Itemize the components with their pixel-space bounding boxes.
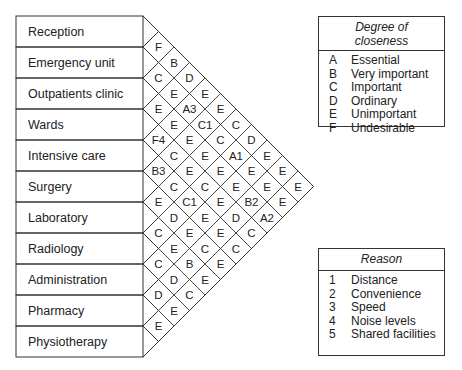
relationship-cell: E (263, 181, 271, 193)
reason-legend-item: 3Speed (319, 301, 444, 315)
relationship-cell: A3 (182, 103, 196, 115)
relationship-cell: D (170, 212, 178, 224)
closeness-legend-key: E (319, 108, 351, 122)
relationship-cell: F4 (152, 134, 166, 146)
relationship-cell: E (294, 181, 302, 193)
relationship-cell: E (217, 165, 225, 177)
relationship-cell: B3 (151, 165, 165, 177)
department-row: Outpatients clinic (16, 78, 159, 109)
closeness-legend-label: Important (351, 81, 402, 95)
reason-legend-label: Convenience (351, 288, 421, 302)
relationship-cell: E (201, 212, 209, 224)
relationship-cell: C (170, 150, 178, 162)
relationship-cell: E (248, 165, 256, 177)
relationship-cell: E (201, 274, 209, 286)
department-label: Emergency unit (28, 56, 115, 70)
closeness-legend-label: Unimportant (351, 108, 416, 122)
relationship-cell: E (232, 181, 240, 193)
relationship-cell: E (201, 150, 209, 162)
reason-legend-item: 2Convenience (319, 288, 444, 302)
relationship-cell: B (170, 57, 178, 69)
reason-legend-key: 1 (319, 274, 351, 288)
reason-legend: Reason 1Distance2Convenience3Speed4Noise… (318, 248, 445, 356)
closeness-legend-item: AEssential (319, 54, 444, 68)
relationship-cell: E (155, 196, 163, 208)
relationship-cell: E (217, 227, 225, 239)
relationship-cell: E (279, 165, 287, 177)
closeness-legend-key: D (319, 95, 351, 109)
department-row: Intensive care (16, 140, 159, 171)
relationship-cell: D (154, 289, 162, 301)
department-label: Radiology (28, 242, 84, 256)
reason-legend-key: 2 (319, 288, 351, 302)
closeness-legend-title: Degree of closeness (319, 17, 444, 51)
department-label: Pharmacy (28, 304, 85, 318)
department-label: Reception (28, 25, 84, 39)
department-label: Physiotherapy (28, 335, 108, 349)
relationship-cell: D (185, 72, 193, 84)
relationship-cell: E (186, 227, 194, 239)
department-label: Intensive care (28, 149, 106, 163)
relationship-cell: E (170, 305, 178, 317)
relationship-cell: E (217, 103, 225, 115)
closeness-legend-label: Essential (351, 54, 400, 68)
reason-legend-item: 4Noise levels (319, 315, 444, 329)
closeness-legend-item: EUnimportant (319, 108, 444, 122)
relationship-cell: F (155, 41, 162, 53)
department-row: Surgery (16, 171, 159, 202)
relationship-cell: C (247, 227, 255, 239)
relationship-cell: E (170, 119, 178, 131)
closeness-legend-item: BVery important (319, 68, 444, 82)
reason-legend-item: 1Distance (319, 274, 444, 288)
relationship-cell: E (217, 196, 225, 208)
reason-legend-key: 5 (319, 328, 351, 342)
department-row: Reception (16, 16, 159, 47)
closeness-legend-label: Undesirable (351, 122, 415, 136)
department-row: Physiotherapy (16, 326, 159, 357)
relationship-cell: E (186, 134, 194, 146)
relationship-cell: B (186, 258, 194, 270)
department-row: Laboratory (16, 202, 159, 233)
department-label: Laboratory (28, 211, 89, 225)
reason-legend-key: 4 (319, 315, 351, 329)
relationship-cell: D (170, 274, 178, 286)
closeness-legend-item: FUndesirable (319, 122, 444, 136)
closeness-legend: Degree of closeness AEssentialBVery impo… (318, 16, 445, 127)
relationship-cell: A2 (260, 212, 274, 224)
relationship-cell: B2 (244, 196, 258, 208)
closeness-legend-key: C (319, 81, 351, 95)
closeness-legend-label: Ordinary (351, 95, 397, 109)
relationship-cell: C1 (198, 119, 213, 131)
relationship-cell: E (170, 88, 178, 100)
reason-legend-label: Speed (351, 301, 386, 315)
relationship-cell: E (155, 320, 163, 332)
department-label: Outpatients clinic (28, 87, 123, 101)
department-row: Wards (16, 109, 159, 140)
relationship-cell: C1 (182, 196, 197, 208)
relationship-cell: C (201, 243, 209, 255)
reason-legend-key: 3 (319, 301, 351, 315)
relationship-cell: E (201, 88, 209, 100)
relationship-cell: C (201, 181, 209, 193)
relationship-cell: C (185, 289, 193, 301)
department-row: Pharmacy (16, 295, 159, 326)
relationship-cell: E (170, 243, 178, 255)
department-label: Surgery (28, 180, 73, 194)
relationship-cell: E (217, 258, 225, 270)
relationship-cell: C (232, 119, 240, 131)
relationship-cell: D (247, 134, 255, 146)
relationship-cell: C (216, 134, 224, 146)
department-row: Radiology (16, 233, 159, 264)
relationship-cell: C (232, 243, 240, 255)
reason-legend-label: Shared facilities (351, 328, 436, 342)
relationship-cell: E (263, 150, 271, 162)
relationship-cell: C (154, 258, 162, 270)
relationship-cell: A1 (229, 150, 243, 162)
closeness-legend-item: DOrdinary (319, 95, 444, 109)
department-label: Wards (28, 118, 64, 132)
relationship-cell: C (170, 181, 178, 193)
reason-legend-item: 5Shared facilities (319, 328, 444, 342)
relationship-cell: C (154, 227, 162, 239)
department-row: Administration (16, 264, 159, 295)
reason-legend-label: Noise levels (351, 315, 416, 329)
